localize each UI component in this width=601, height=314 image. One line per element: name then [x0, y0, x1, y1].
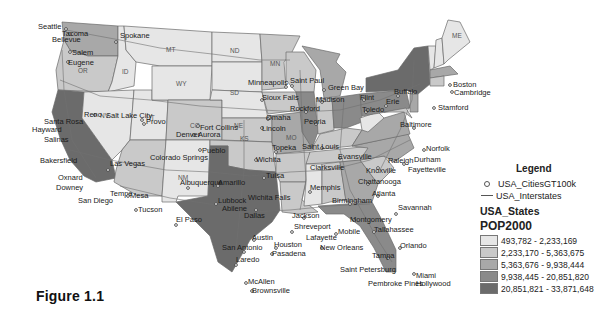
- city-label: Orlando: [400, 241, 427, 250]
- city-label: Colorado Springs: [150, 153, 208, 162]
- city-label: Dallas: [244, 211, 265, 220]
- legend-layer-label: USA_Interstates: [496, 191, 562, 201]
- city-label: San Antonio: [222, 243, 262, 252]
- state-label: MN: [270, 60, 280, 67]
- city-label: Salem: [72, 48, 93, 57]
- city-label: Tallahassee: [374, 225, 414, 234]
- city-label: Tulsa: [266, 171, 285, 180]
- legend-class: 20,851,821 - 33,871,648: [480, 283, 601, 294]
- legend-class-range: 9,938,445 - 20,851,820: [501, 272, 589, 282]
- legend-class-range: 2,233,170 - 5,363,675: [501, 248, 584, 258]
- line-icon: [481, 195, 493, 196]
- city-label: Green Bay: [328, 83, 364, 92]
- city-label: Tampa: [372, 251, 395, 260]
- state-label: MO: [286, 134, 296, 141]
- city-label: Pasadena: [272, 249, 307, 258]
- city-label: New Orleans: [320, 243, 364, 252]
- city-label: Topeka: [272, 143, 297, 152]
- city-label: Lincoln: [262, 124, 286, 133]
- city-label: Mesa: [130, 191, 149, 200]
- legend-polygon-layer: USA_States: [480, 205, 601, 217]
- city-label: Eugene: [68, 58, 94, 67]
- city-label: Cambridge: [454, 88, 491, 97]
- city-label: Provo: [146, 117, 166, 126]
- state-label: ID: [122, 68, 129, 75]
- legend-class: 493,782 - 2,233,169: [480, 235, 601, 246]
- state-ct: [430, 76, 444, 86]
- city-label: Toledo: [362, 105, 384, 114]
- city-label: Seattle: [38, 22, 61, 31]
- state-label: KS: [240, 135, 249, 142]
- city-label: Rockford: [290, 104, 320, 113]
- legend-layer-cities: USA_CitiesGT100k: [480, 178, 601, 189]
- map-legend: Legend USA_CitiesGT100k USA_Interstates …: [480, 163, 601, 295]
- state-sd: [212, 62, 262, 92]
- city-label: Austin: [252, 233, 273, 242]
- city-label: Norfolk: [426, 144, 450, 153]
- legend-class-range: 5,363,676 - 9,938,444: [501, 260, 584, 270]
- state-label: OR: [78, 67, 88, 74]
- city-label: Bellevue: [52, 35, 81, 44]
- city-label: Savannah: [398, 203, 432, 212]
- city-label: Fayetteville: [408, 165, 446, 174]
- point-icon: [484, 181, 490, 187]
- city-label: Lafayette: [306, 233, 337, 242]
- city-label: Clarksville: [310, 163, 344, 172]
- city-label: Stamford: [438, 103, 468, 112]
- city-label: Omaha: [266, 113, 291, 122]
- city-label: Tucson: [138, 205, 162, 214]
- city-label: Memphis: [310, 183, 341, 192]
- city-label: Chattanooga: [358, 177, 402, 186]
- city-label: Wichita: [256, 155, 281, 164]
- state-nj: [410, 94, 418, 112]
- state-label: MT: [166, 46, 175, 53]
- city-label: Albuquerque: [180, 178, 223, 187]
- city-label: Mobile: [338, 227, 360, 236]
- city-label: Atlanta: [372, 189, 396, 198]
- city-label: Brownsville: [252, 286, 290, 295]
- city-label: Sioux Falls: [262, 93, 299, 102]
- city-label: Raleigh: [388, 156, 413, 165]
- legend-field: POP2000: [480, 219, 601, 233]
- city-label: Minneapolis: [248, 78, 288, 87]
- city-label: Reno: [84, 110, 102, 119]
- swatch-icon: [480, 235, 498, 246]
- city-label: Hollywood: [416, 279, 451, 288]
- city-label: Downey: [56, 183, 83, 192]
- legend-class: 5,363,676 - 9,938,444: [480, 259, 601, 270]
- legend-class: 9,938,445 - 20,851,820: [480, 271, 601, 282]
- city-label: Peoria: [304, 117, 327, 126]
- swatch-icon: [480, 271, 498, 282]
- legend-class-range: 493,782 - 2,233,169: [501, 236, 577, 246]
- city-label: Wichita Falls: [248, 193, 291, 202]
- legend-layer-label: USA_CitiesGT100k: [498, 179, 576, 189]
- city-label: Flint: [360, 93, 375, 102]
- swatch-icon: [480, 259, 498, 270]
- city-label: Birmingham: [332, 196, 372, 205]
- city-label: Spokane: [120, 31, 150, 40]
- city-label: Shreveport: [294, 222, 332, 231]
- city-label: Saint Louis: [302, 142, 339, 151]
- city-label: Amarillo: [218, 178, 245, 187]
- city-label: El Paso: [176, 215, 202, 224]
- figure-caption: Figure 1.1: [36, 288, 104, 304]
- city-label: San Diego: [78, 196, 113, 205]
- city-label: Montgomery: [350, 215, 392, 224]
- city-label: Saint Petersburg: [340, 265, 396, 274]
- legend-title: Legend: [516, 163, 601, 174]
- state-me: [442, 20, 470, 64]
- city-label: Bakersfield: [40, 156, 77, 165]
- city-label: Knoxville: [366, 166, 396, 175]
- state-label: ME: [452, 32, 462, 39]
- legend-class: 2,233,170 - 5,363,675: [480, 247, 601, 258]
- state-label: SD: [230, 89, 239, 96]
- city-label: Saint Paul: [290, 76, 325, 85]
- city-label: Houston: [274, 240, 302, 249]
- swatch-icon: [480, 247, 498, 258]
- city-label: Las Vegas: [110, 159, 145, 168]
- city-label: Buffalo: [394, 87, 417, 96]
- city-label: Erie: [386, 97, 399, 106]
- city-label: Salinas: [44, 135, 69, 144]
- city-label: Hayward: [32, 125, 62, 134]
- city-label: Baltimore: [400, 120, 432, 129]
